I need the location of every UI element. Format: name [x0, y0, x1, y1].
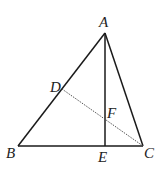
label-c: C [144, 145, 155, 161]
geometry-diagram: A D F B E C [0, 0, 160, 170]
label-e: E [97, 149, 107, 165]
label-a: A [98, 14, 109, 30]
label-f: F [106, 105, 117, 121]
segment-ac [105, 33, 143, 146]
label-b: B [6, 145, 15, 161]
segment-dc [62, 89, 143, 146]
label-d: D [49, 79, 61, 95]
segment-ab [18, 33, 105, 146]
